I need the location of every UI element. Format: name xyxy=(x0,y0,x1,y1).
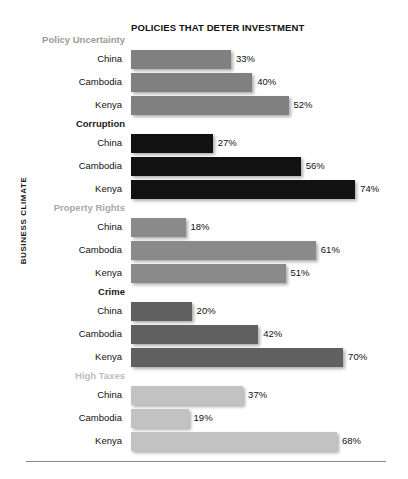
bar-value-label: 56% xyxy=(306,160,325,171)
bar-row: Kenya70% xyxy=(0,347,408,370)
bar-track: 18% xyxy=(131,218,408,237)
bar-track: 68% xyxy=(131,432,408,451)
category-label: Kenya xyxy=(0,435,122,446)
bar-groups: Policy UncertaintyChina33%Cambodia40%Ken… xyxy=(0,34,408,454)
category-label: China xyxy=(0,221,122,232)
bar-value-label: 70% xyxy=(348,351,367,362)
bar-track: 61% xyxy=(131,241,408,260)
bar-track: 52% xyxy=(131,96,408,115)
bar xyxy=(131,96,289,115)
bar-group: CrimeChina20%Cambodia42%Kenya70% xyxy=(0,286,408,370)
category-label: Kenya xyxy=(0,351,122,362)
bar xyxy=(131,50,231,69)
group-label: Policy Uncertainty xyxy=(0,34,125,45)
bar-value-label: 37% xyxy=(248,389,267,400)
bar-row: Kenya68% xyxy=(0,431,408,454)
bar-value-label: 51% xyxy=(291,267,310,278)
bar-value-label: 61% xyxy=(321,244,340,255)
bar-track: 51% xyxy=(131,264,408,283)
category-label: Cambodia xyxy=(0,412,122,423)
bar-track: 42% xyxy=(131,325,408,344)
bar-row: China33% xyxy=(0,49,408,72)
bar-row: Cambodia61% xyxy=(0,240,408,263)
bar xyxy=(131,409,189,428)
chart-container: POLICIES THAT DETER INVESTMENT BUSINESS … xyxy=(0,0,408,479)
category-label: Cambodia xyxy=(0,76,122,87)
bar-track: 27% xyxy=(131,134,408,153)
bar-row: China20% xyxy=(0,301,408,324)
group-rows: China33%Cambodia40%Kenya52% xyxy=(0,49,408,118)
bar-track: 37% xyxy=(131,386,408,405)
group-label: Corruption xyxy=(0,118,125,129)
bar-track: 56% xyxy=(131,157,408,176)
bar-track: 74% xyxy=(131,180,408,199)
bar-value-label: 27% xyxy=(218,137,237,148)
category-label: Cambodia xyxy=(0,244,122,255)
bar-track: 19% xyxy=(131,409,408,428)
bar-row: China18% xyxy=(0,217,408,240)
category-label: Cambodia xyxy=(0,160,122,171)
bar-track: 33% xyxy=(131,50,408,69)
bar-row: Cambodia19% xyxy=(0,408,408,431)
bar-track: 70% xyxy=(131,348,408,367)
bar-group: CorruptionChina27%Cambodia56%Kenya74% xyxy=(0,118,408,202)
bar-value-label: 20% xyxy=(197,305,216,316)
category-label: Cambodia xyxy=(0,328,122,339)
bar-value-label: 42% xyxy=(263,328,282,339)
bar-group: Policy UncertaintyChina33%Cambodia40%Ken… xyxy=(0,34,408,118)
bar-row: Cambodia42% xyxy=(0,324,408,347)
group-label: High Taxes xyxy=(0,370,125,381)
bar-value-label: 68% xyxy=(342,435,361,446)
bar xyxy=(131,302,192,321)
bar-row: Kenya74% xyxy=(0,179,408,202)
bar xyxy=(131,218,186,237)
bar xyxy=(131,325,258,344)
bar xyxy=(131,432,337,451)
bar xyxy=(131,180,355,199)
category-label: China xyxy=(0,305,122,316)
bottom-divider xyxy=(26,461,386,462)
category-label: Kenya xyxy=(0,267,122,278)
category-label: China xyxy=(0,389,122,400)
group-label: Property Rights xyxy=(0,202,125,213)
group-rows: China20%Cambodia42%Kenya70% xyxy=(0,301,408,370)
bar-row: China37% xyxy=(0,385,408,408)
bar-value-label: 40% xyxy=(257,76,276,87)
bar xyxy=(131,264,286,283)
group-label: Crime xyxy=(0,286,125,297)
bar-value-label: 19% xyxy=(194,412,213,423)
group-rows: China18%Cambodia61%Kenya51% xyxy=(0,217,408,286)
bar xyxy=(131,134,213,153)
bar-row: Kenya51% xyxy=(0,263,408,286)
bar xyxy=(131,386,243,405)
category-label: China xyxy=(0,53,122,64)
bar-track: 20% xyxy=(131,302,408,321)
group-rows: China37%Cambodia19%Kenya68% xyxy=(0,385,408,454)
category-label: Kenya xyxy=(0,183,122,194)
bar-group: Property RightsChina18%Cambodia61%Kenya5… xyxy=(0,202,408,286)
bar-value-label: 18% xyxy=(191,221,210,232)
bar-group: High TaxesChina37%Cambodia19%Kenya68% xyxy=(0,370,408,454)
bar-row: Cambodia56% xyxy=(0,156,408,179)
group-rows: China27%Cambodia56%Kenya74% xyxy=(0,133,408,202)
bar-row: China27% xyxy=(0,133,408,156)
bar-row: Cambodia40% xyxy=(0,72,408,95)
bar-track: 40% xyxy=(131,73,408,92)
bar-row: Kenya52% xyxy=(0,95,408,118)
bar-value-label: 74% xyxy=(360,183,379,194)
bar xyxy=(131,348,343,367)
bar xyxy=(131,73,252,92)
bar-value-label: 33% xyxy=(236,53,255,64)
bar xyxy=(131,157,301,176)
category-label: China xyxy=(0,137,122,148)
bar xyxy=(131,241,316,260)
category-label: Kenya xyxy=(0,99,122,110)
chart-title: POLICIES THAT DETER INVESTMENT xyxy=(131,22,304,33)
bar-value-label: 52% xyxy=(294,99,313,110)
